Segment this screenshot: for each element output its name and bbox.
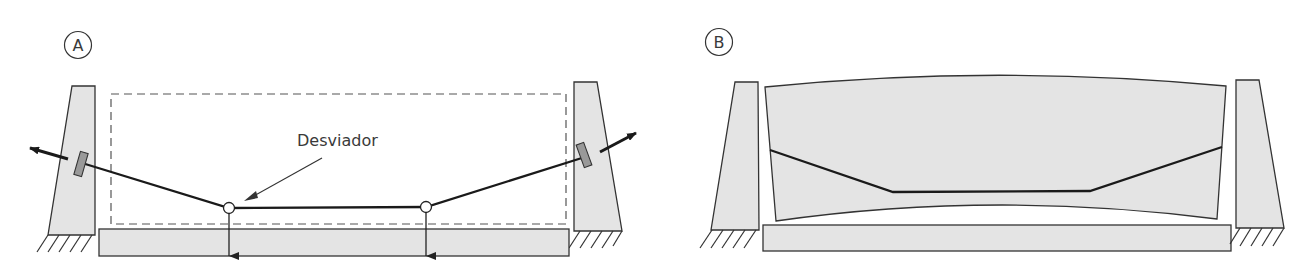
ground-hatch-icon: [1230, 228, 1284, 246]
leader-arrow-icon: [244, 158, 322, 201]
panel-a-letter: A: [73, 36, 84, 55]
panel-a-label: A: [65, 32, 92, 59]
ground-hatch-icon: [569, 231, 622, 248]
deformed-deck-block: [765, 75, 1226, 221]
panel-b: B: [700, 29, 1284, 252]
deck-slab-b: [763, 225, 1231, 251]
panel-b-label: B: [706, 29, 733, 56]
panel-a: A: [30, 32, 636, 257]
figure-canvas: A: [0, 0, 1311, 279]
dashed-outline: [111, 94, 566, 224]
panel-b-letter: B: [714, 33, 725, 52]
ground-hatch-icon: [700, 230, 756, 248]
right-abutment-a: [569, 82, 622, 248]
deck-slab-a: [99, 229, 569, 256]
deviator-left: [224, 203, 235, 214]
ground-hatch-icon: [37, 235, 92, 252]
deviator-right: [421, 202, 432, 213]
left-abutment-b: [700, 82, 759, 248]
left-abutment-a: [37, 86, 95, 252]
deviator-label: Desviador: [297, 131, 378, 150]
right-abutment-b: [1230, 80, 1284, 246]
